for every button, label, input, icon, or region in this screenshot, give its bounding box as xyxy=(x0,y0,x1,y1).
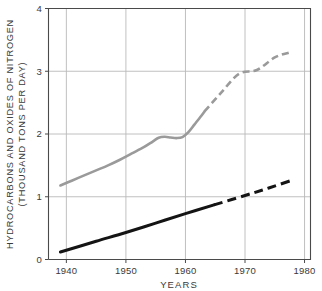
x-tick-label: 1960 xyxy=(174,265,196,276)
x-tick-label: 1980 xyxy=(294,265,316,276)
x-tick-label: 1970 xyxy=(234,265,256,276)
line-chart: 19401950196019701980 01234 YEARS HYDROCA… xyxy=(0,0,322,291)
x-tick-labels: 19401950196019701980 xyxy=(55,265,315,276)
y-tick-label: 3 xyxy=(37,66,42,77)
chart-container: 19401950196019701980 01234 YEARS HYDROCA… xyxy=(0,0,322,291)
y-tick-label: 1 xyxy=(37,191,42,202)
x-tick-label: 1950 xyxy=(115,265,137,276)
x-axis-title: YEARS xyxy=(160,279,198,290)
x-tick-label: 1940 xyxy=(55,265,77,276)
y-axis-title-line2: (THOUSAND TONS PER DAY) xyxy=(17,62,27,207)
y-tick-label: 2 xyxy=(37,128,42,139)
y-tick-label: 0 xyxy=(37,254,42,265)
y-tick-labels: 01234 xyxy=(37,3,42,265)
y-tick-label: 4 xyxy=(37,3,42,14)
y-axis-title-line1: HYDROCARBONS AND OXIDES OF NITROGEN xyxy=(5,19,15,249)
